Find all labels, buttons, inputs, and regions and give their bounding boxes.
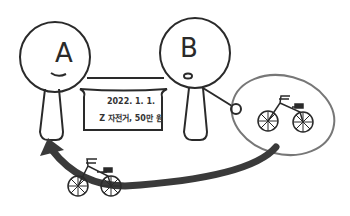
mouth-icon bbox=[184, 74, 192, 79]
person-b-label: B bbox=[180, 33, 198, 63]
contract-date: 2022. 1. 1. bbox=[84, 97, 178, 106]
contract-content: Z 자전거, 50만 원 bbox=[84, 112, 178, 123]
person-b-body bbox=[184, 88, 207, 140]
person-a-label: A bbox=[55, 38, 73, 68]
diagram-canvas bbox=[0, 0, 350, 216]
contract-document bbox=[80, 89, 167, 130]
bicycle-icon bbox=[68, 159, 121, 196]
highlight-ellipse bbox=[223, 64, 344, 166]
person-b-arm bbox=[203, 88, 232, 106]
person-a-body bbox=[40, 89, 63, 140]
bicycle-icon bbox=[258, 96, 313, 132]
smile-icon bbox=[51, 73, 66, 76]
